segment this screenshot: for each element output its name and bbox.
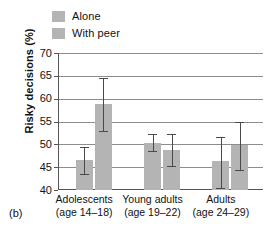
error-bar	[172, 134, 173, 166]
error-bar-cap	[99, 78, 108, 79]
y-tick-label: 50	[26, 139, 52, 150]
gridline	[59, 76, 263, 77]
y-tick-label: 45	[26, 162, 52, 173]
error-bar	[103, 78, 104, 131]
panel-label: (b)	[9, 207, 22, 219]
figure-panel-b: Alone With peer Risky decisions (%) 4045…	[0, 0, 272, 235]
error-bar	[221, 137, 222, 187]
error-bar-cap	[167, 166, 176, 167]
error-bar-cap	[216, 188, 225, 189]
y-tick-mark	[54, 190, 58, 191]
error-bar-cap	[148, 134, 157, 135]
y-tick-label: 65	[26, 70, 52, 81]
error-bar-cap	[99, 131, 108, 132]
gridline	[59, 122, 263, 123]
error-bar-cap	[216, 137, 225, 138]
error-bar-cap	[235, 170, 244, 171]
x-label-line-2: (age 14–18)	[50, 206, 118, 219]
x-label-line-2: (age 24–29)	[187, 206, 255, 219]
y-tick-label: 70	[26, 48, 52, 59]
error-bar	[84, 147, 85, 174]
error-bar-cap	[167, 134, 176, 135]
x-label-line-1: Adolescents	[56, 193, 113, 205]
x-axis-group-label: Young adults(age 19–22)	[118, 193, 186, 219]
error-bar	[153, 134, 154, 151]
error-bar	[240, 122, 241, 171]
error-bar-cap	[80, 147, 89, 148]
x-axis-group-label: Adolescents(age 14–18)	[50, 193, 118, 219]
y-tick-label: 60	[26, 93, 52, 104]
x-axis-group-label: Adults(age 24–29)	[187, 193, 255, 219]
x-label-line-1: Adults	[206, 193, 235, 205]
y-tick-label: 55	[26, 116, 52, 127]
gridline	[59, 99, 263, 100]
x-label-line-2: (age 19–22)	[118, 206, 186, 219]
x-axis-labels: Adolescents(age 14–18)Young adults(age 1…	[58, 193, 263, 227]
gridline	[59, 53, 263, 54]
plot-area	[58, 53, 263, 190]
x-label-line-1: Young adults	[122, 193, 182, 205]
y-tick-label: 40	[26, 185, 52, 196]
error-bar-cap	[80, 174, 89, 175]
error-bar-cap	[148, 151, 157, 152]
error-bar-cap	[235, 122, 244, 123]
